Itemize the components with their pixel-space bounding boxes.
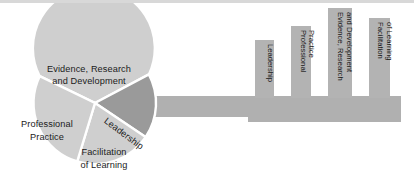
pie-label-evidence-line2: and Development <box>52 76 126 86</box>
bar-label-professional-line2: Practice <box>307 30 316 58</box>
bar-label-evidence-line1: Evidence, Research <box>336 12 345 81</box>
bar-label-facilitation-line1: Facilitation <box>376 22 385 59</box>
top-rule-divider <box>0 0 414 3</box>
diagram-svg: Leadership Professional Practice Evidenc… <box>0 0 414 190</box>
pie-label-facilitation-line2: of Learning <box>80 160 127 170</box>
bar-label-facilitation-line2: of Learning <box>385 22 394 61</box>
bar-label-evidence-line2: and Development <box>345 12 354 73</box>
pie-label-facilitation-line1: Facilitation <box>81 147 126 157</box>
pie-label-evidence-line1: Evidence, Research <box>47 64 131 74</box>
bar-baseline-beam <box>248 96 401 122</box>
connector-beam-group <box>152 96 401 122</box>
bar-label-professional-line1: Professional <box>299 30 308 73</box>
pie-label-professional-line2: Practice <box>30 132 64 142</box>
diagram-canvas: Leadership Professional Practice Evidenc… <box>0 0 414 190</box>
bar-label-leadership: Leadership <box>266 44 275 82</box>
pie-label-professional-line1: Professional <box>21 119 73 129</box>
